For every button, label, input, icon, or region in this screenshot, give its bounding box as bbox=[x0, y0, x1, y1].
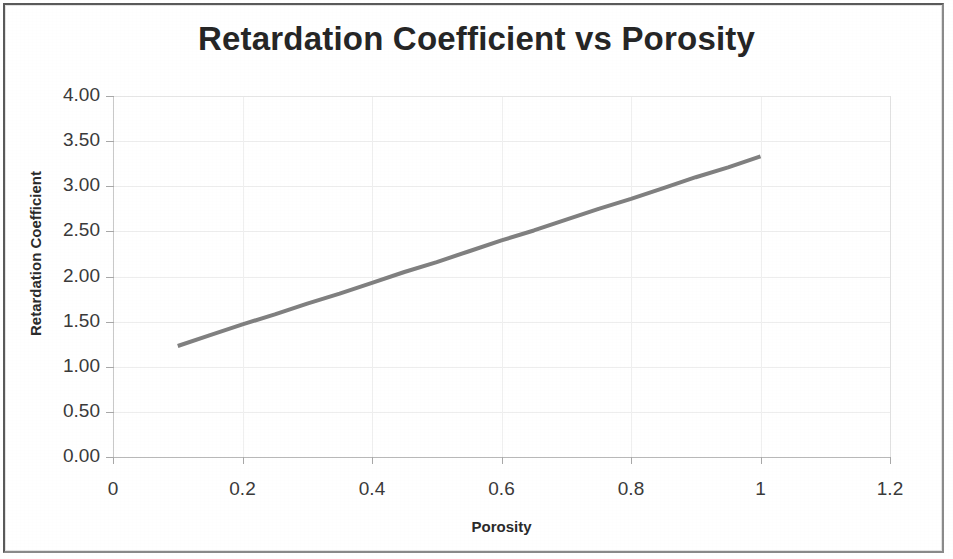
x-axis-tick-label: 0.8 bbox=[596, 478, 666, 500]
x-axis-tick bbox=[243, 457, 244, 464]
x-axis-tick-label: 0 bbox=[78, 478, 148, 500]
x-axis-tick-label: 0.6 bbox=[467, 478, 537, 500]
y-axis-tick-label: 1.00 bbox=[38, 355, 100, 377]
chart-page: Retardation Coefficient vs Porosity Reta… bbox=[0, 0, 953, 559]
y-axis-tick-label: 1.50 bbox=[38, 310, 100, 332]
series-polyline bbox=[178, 156, 761, 346]
y-axis-tick-label: 3.50 bbox=[38, 129, 100, 151]
y-axis-tick-label: 2.00 bbox=[38, 265, 100, 287]
x-axis-tick bbox=[372, 457, 373, 464]
y-axis-tick-label: 3.00 bbox=[38, 174, 100, 196]
x-axis-tick-label: 1.2 bbox=[855, 478, 925, 500]
x-axis-tick bbox=[890, 457, 891, 464]
x-axis-tick-label: 1 bbox=[726, 478, 796, 500]
data-series-line bbox=[113, 96, 890, 457]
y-axis-tick-label: 0.50 bbox=[38, 400, 100, 422]
y-axis-tick-label: 0.00 bbox=[38, 445, 100, 467]
plot-border-right bbox=[890, 96, 891, 457]
y-axis-tick-label: 4.00 bbox=[38, 84, 100, 106]
x-axis-tick bbox=[502, 457, 503, 464]
y-axis-tick-label: 2.50 bbox=[38, 219, 100, 241]
x-axis-tick bbox=[113, 457, 114, 464]
x-axis-tick-label: 0.4 bbox=[337, 478, 407, 500]
x-axis-tick bbox=[631, 457, 632, 464]
x-axis-tick-label: 0.2 bbox=[208, 478, 278, 500]
chart-title: Retardation Coefficient vs Porosity bbox=[0, 20, 953, 58]
x-axis-title: Porosity bbox=[113, 518, 890, 535]
x-axis-tick bbox=[761, 457, 762, 464]
y-axis-tick-labels: 0.000.501.001.502.002.503.003.504.00 bbox=[38, 0, 100, 559]
